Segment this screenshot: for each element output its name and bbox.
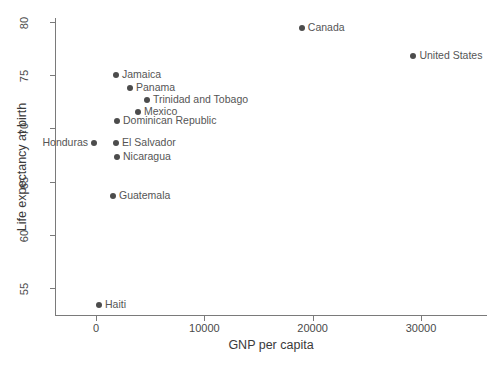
y-tick-label: 80: [18, 17, 30, 29]
data-point-label: Panama: [136, 81, 175, 93]
data-point-marker[interactable]: [96, 302, 102, 308]
y-axis-title: Life expectancy at birth: [15, 67, 29, 267]
data-point-marker[interactable]: [127, 85, 133, 91]
data-point-label: Canada: [308, 21, 345, 33]
scatter-chart: 556065707580 0100002000030000 Life expec…: [0, 0, 494, 371]
data-point-label: Jamaica: [122, 68, 161, 80]
data-point-label: Guatemala: [119, 189, 170, 201]
y-tick-mark: [50, 22, 55, 23]
y-tick-mark: [50, 75, 55, 76]
data-point-label: Haiti: [105, 298, 126, 310]
data-point-marker[interactable]: [299, 25, 305, 31]
x-axis-title: GNP per capita: [55, 338, 487, 352]
data-point-label: Dominican Republic: [123, 114, 216, 126]
data-point-marker[interactable]: [91, 140, 97, 146]
data-point-marker[interactable]: [114, 154, 120, 160]
y-tick-mark: [50, 235, 55, 236]
y-tick-label-wrap: 80: [0, 13, 48, 31]
data-point-marker[interactable]: [410, 53, 416, 59]
x-tick-mark: [204, 316, 205, 321]
x-tick-label: 20000: [297, 322, 328, 334]
data-point-label: Honduras: [43, 136, 89, 148]
data-point-label: El Salvador: [122, 136, 176, 148]
data-point-marker[interactable]: [144, 97, 150, 103]
x-tick-mark: [313, 316, 314, 321]
y-tick-mark: [50, 182, 55, 183]
y-tick-mark: [50, 288, 55, 289]
x-tick-label: 30000: [406, 322, 437, 334]
data-point-marker[interactable]: [113, 140, 119, 146]
x-axis-line: [55, 315, 487, 316]
y-tick-mark: [50, 128, 55, 129]
x-tick-mark: [96, 316, 97, 321]
y-axis-line: [55, 18, 56, 316]
data-point-marker[interactable]: [113, 72, 119, 78]
x-tick-label: 0: [93, 322, 99, 334]
data-point-label: United States: [419, 49, 482, 61]
data-point-marker[interactable]: [110, 193, 116, 199]
x-tick-mark: [421, 316, 422, 321]
data-point-label: Trinidad and Tobago: [153, 93, 248, 105]
x-tick-label: 10000: [189, 322, 220, 334]
y-tick-label: 55: [18, 283, 30, 295]
y-tick-label-wrap: 55: [0, 279, 48, 297]
data-point-marker[interactable]: [114, 118, 120, 124]
data-point-label: Nicaragua: [123, 150, 171, 162]
